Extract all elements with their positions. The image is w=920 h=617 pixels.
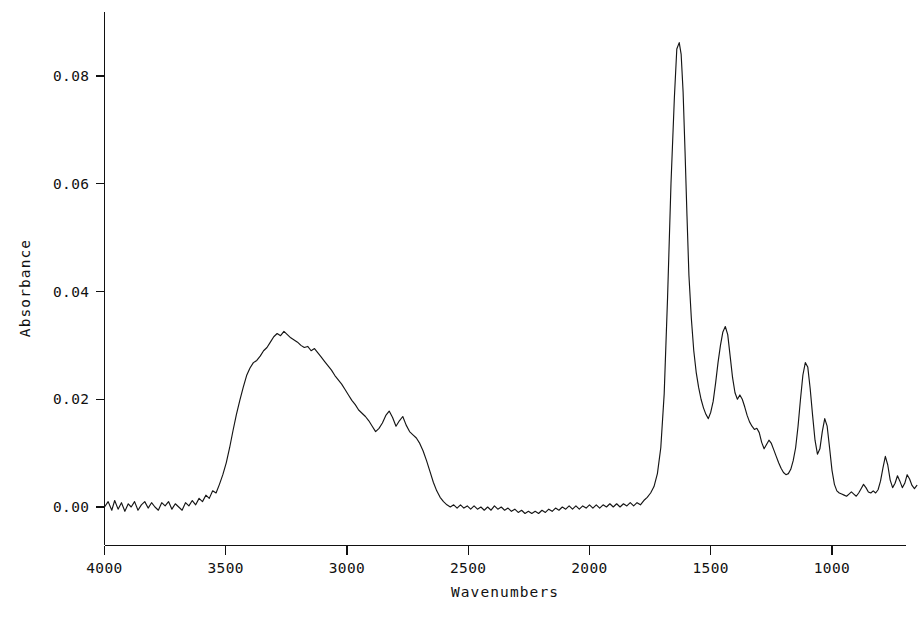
spectrum-plot: 0.000.020.040.060.08 4000350030002500200… (0, 0, 920, 617)
y-tick-labels-group: 0.000.020.040.060.08 (53, 68, 90, 515)
x-tick-label: 2500 (450, 560, 487, 576)
y-ticks-group (96, 76, 105, 507)
x-tick-label: 1500 (692, 560, 729, 576)
x-tick-label: 4000 (86, 560, 123, 576)
x-tick-label: 3000 (329, 560, 366, 576)
x-tick-label: 2000 (571, 560, 608, 576)
y-tick-label: 0.06 (53, 176, 90, 192)
y-tick-label: 0.08 (53, 68, 90, 84)
x-axis-title: Wavenumbers (451, 584, 559, 600)
y-tick-label: 0.00 (53, 499, 90, 515)
spectrum-trace (105, 43, 917, 514)
x-ticks-group (105, 546, 833, 555)
y-tick-label: 0.04 (53, 284, 90, 300)
ir-spectrum-figure: 0.000.020.040.060.08 4000350030002500200… (0, 0, 920, 617)
x-tick-label: 1000 (814, 560, 851, 576)
x-tick-labels-group: 4000350030002500200015001000 (86, 560, 850, 576)
y-axis-title: Absorbance (17, 239, 33, 337)
x-tick-label: 3500 (207, 560, 244, 576)
y-tick-label: 0.02 (53, 391, 90, 407)
axes-group (105, 12, 907, 546)
